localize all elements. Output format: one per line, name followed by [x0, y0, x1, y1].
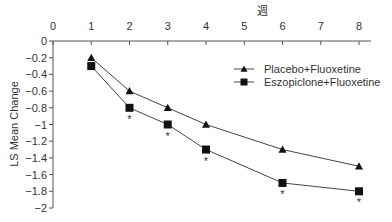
y-axis-title: LS Mean Change — [8, 81, 20, 167]
x-tick-label: 1 — [88, 20, 94, 32]
y-tick-label: −0.6 — [25, 85, 47, 97]
legend-label: Eszopiclone+Fluoxetine — [264, 76, 381, 88]
x-tick-label: 7 — [318, 20, 324, 32]
x-tick-label: 5 — [241, 20, 247, 32]
triangle-marker-icon — [164, 104, 172, 111]
square-marker-icon — [355, 187, 363, 195]
y-tick-label: −1.2 — [25, 135, 47, 147]
significance-asterisk: * — [127, 113, 132, 125]
x-axis-title: 週 — [257, 5, 268, 17]
y-tick-label: −1.8 — [25, 185, 47, 197]
y-tick-label: −1 — [34, 119, 47, 131]
x-tick-label: 6 — [279, 20, 285, 32]
x-tick-label: 2 — [126, 20, 132, 32]
y-tick-label: −0.2 — [25, 52, 47, 64]
legend-label: Placebo+Fluoxetine — [264, 63, 361, 75]
significance-asterisk: * — [280, 188, 285, 200]
legend: Placebo+FluoxetineEszopiclone+Fluoxetine — [234, 63, 381, 88]
y-tick-label: −1.6 — [25, 169, 47, 181]
x-tick-label: 4 — [203, 20, 209, 32]
x-tick-label: 3 — [165, 20, 171, 32]
square-marker-icon — [87, 62, 95, 70]
y-axis: 0−0.2−0.4−0.6−0.8−1−1.2−1.4−1.6−1.8−2 — [25, 35, 53, 214]
square-marker-icon — [241, 79, 248, 86]
square-marker-icon — [164, 121, 172, 129]
legend-item: Placebo+Fluoxetine — [234, 63, 361, 75]
square-marker-icon — [202, 146, 210, 154]
y-tick-label: −0.4 — [25, 68, 47, 80]
x-axis: 012345678 — [50, 20, 371, 45]
square-marker-icon — [126, 104, 134, 112]
x-tick-label: 0 — [50, 20, 56, 32]
significance-asterisk: * — [204, 155, 209, 167]
square-marker-icon — [279, 179, 287, 187]
line-chart: 週 012345678 0−0.2−0.4−0.6−0.8−1−1.2−1.4−… — [0, 0, 392, 222]
legend-item: Eszopiclone+Fluoxetine — [234, 76, 381, 88]
triangle-marker-icon — [202, 121, 210, 128]
y-tick-label: −1.4 — [25, 152, 47, 164]
y-tick-label: −0.8 — [25, 102, 47, 114]
y-tick-label: −2 — [34, 202, 47, 214]
y-tick-label: 0 — [41, 35, 47, 47]
significance-asterisk: * — [357, 196, 362, 208]
x-tick-label: 8 — [356, 20, 362, 32]
significance-asterisk: * — [166, 130, 171, 142]
triangle-marker-icon — [87, 54, 95, 61]
